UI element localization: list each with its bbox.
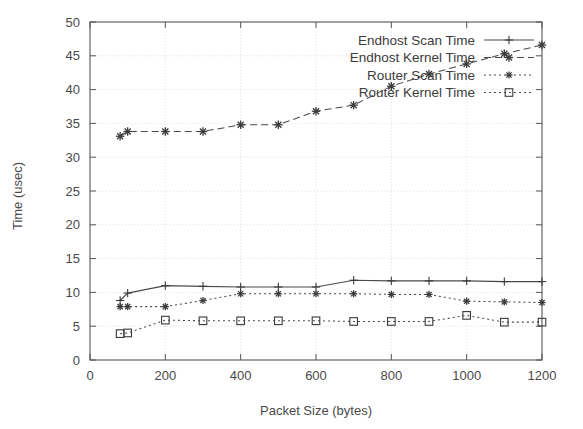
- legend-label-3: Router Kernel Time: [359, 85, 475, 100]
- series-line: [120, 280, 542, 300]
- legend-label-0: Endhost Scan Time: [358, 33, 475, 48]
- y-tick-label: 25: [66, 184, 80, 199]
- y-tick-label: 50: [66, 15, 80, 30]
- data-point-marker: [124, 329, 132, 337]
- y-tick-label: 20: [66, 217, 80, 232]
- y-tick-label: 35: [66, 116, 80, 131]
- legend-label-2: Router Scan Time: [367, 68, 475, 83]
- chart-figure: 020040060080010001200 051015202530354045…: [0, 0, 583, 429]
- x-tick-label: 600: [305, 368, 327, 383]
- legend-label-1: Endhost Kernel Time: [350, 50, 475, 65]
- x-tick-label: 0: [86, 368, 93, 383]
- x-tick-label: 200: [154, 368, 176, 383]
- series-endhost-scan-time: [116, 276, 546, 305]
- x-tick-label: 1200: [528, 368, 557, 383]
- y-tick-label: 5: [73, 319, 80, 334]
- series-line: [120, 45, 542, 136]
- data-series-group: [116, 41, 546, 338]
- y-tick-label: 40: [66, 82, 80, 97]
- y-tick-label: 10: [66, 285, 80, 300]
- line-chart-svg: 020040060080010001200 051015202530354045…: [0, 0, 583, 429]
- series-line: [120, 294, 542, 307]
- x-tick-label: 1000: [452, 368, 481, 383]
- y-tick-label: 30: [66, 150, 80, 165]
- y-tick-label: 45: [66, 48, 80, 63]
- x-tick-label: 800: [380, 368, 402, 383]
- series-router-scan-time: [117, 290, 546, 310]
- x-tick-label: 400: [230, 368, 252, 383]
- series-line: [120, 315, 542, 333]
- y-tick-label: 0: [73, 353, 80, 368]
- y-tick-label: 15: [66, 251, 80, 266]
- y-axis-title: Time (usec): [10, 162, 25, 230]
- series-router-kernel-time: [116, 312, 545, 338]
- x-axis-ticks: 020040060080010001200: [86, 22, 556, 383]
- x-axis-title: Packet Size (bytes): [260, 403, 372, 418]
